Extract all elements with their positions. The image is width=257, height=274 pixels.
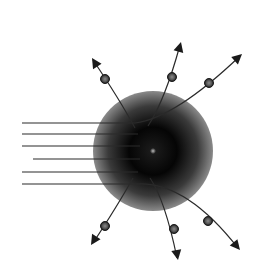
- scattered-particle: [205, 79, 214, 88]
- arrowhead-icon: [171, 249, 183, 261]
- target-sphere: [93, 91, 213, 211]
- scattered-particle: [101, 222, 110, 231]
- scattered-particle: [204, 217, 213, 226]
- scattering-diagram: [0, 0, 257, 274]
- arrowhead-icon: [174, 41, 186, 53]
- arrowhead-icon: [87, 234, 101, 248]
- scattered-particle: [170, 225, 179, 234]
- arrowhead-icon: [88, 55, 102, 69]
- scattered-particle: [168, 73, 177, 82]
- scattered-particle: [101, 75, 110, 84]
